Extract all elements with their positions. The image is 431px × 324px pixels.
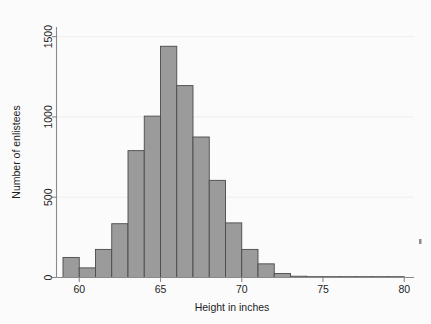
x-tick-label: 75	[317, 283, 329, 295]
histogram-figure: 050010001500 6065707580 Height in inches…	[0, 0, 431, 324]
histogram-bar	[226, 223, 242, 278]
x-tick-label: 60	[73, 283, 85, 295]
histogram-bar	[177, 86, 193, 278]
x-axis-title: Height in inches	[195, 301, 270, 313]
histogram-bar	[242, 249, 258, 277]
histogram-bar	[63, 257, 79, 277]
histogram-bar	[274, 273, 290, 277]
histogram-bar	[144, 116, 160, 277]
y-tick-label: 500	[42, 188, 54, 206]
stray-mark	[419, 239, 422, 244]
histogram-bar	[209, 180, 225, 277]
y-tick-label: 1500	[42, 25, 54, 49]
x-tick-label: 65	[155, 283, 167, 295]
histogram-chart: 050010001500 6065707580 Height in inches…	[0, 0, 431, 324]
histogram-bar	[112, 224, 128, 278]
x-tick-label: 80	[398, 283, 410, 295]
histogram-bar	[161, 46, 177, 277]
x-tick-label: 70	[236, 283, 248, 295]
histogram-bar	[79, 268, 95, 278]
histogram-bar	[128, 151, 144, 278]
histogram-bar	[96, 249, 112, 277]
y-axis-title: Number of enlistees	[10, 105, 22, 198]
histogram-bar	[258, 264, 274, 278]
y-tick-label: 0	[42, 274, 54, 280]
y-tick-label: 1000	[42, 105, 54, 129]
histogram-bar	[193, 137, 209, 278]
